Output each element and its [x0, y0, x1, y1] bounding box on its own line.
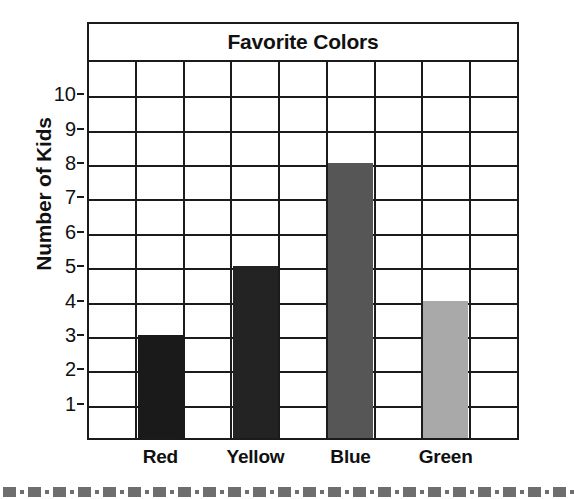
deco-dash [478, 487, 491, 497]
deco-dash [303, 487, 316, 497]
deco-dash [528, 487, 541, 497]
deco-segment [450, 487, 475, 497]
y-tick-label: 10 [46, 84, 76, 104]
y-tick-label: 6 [46, 222, 76, 242]
deco-dot [270, 490, 274, 494]
deco-dot [370, 490, 374, 494]
y-tick-mark [77, 334, 84, 336]
y-tick-mark [77, 231, 84, 233]
y-tick-mark [77, 128, 84, 130]
deco-dash [278, 487, 291, 497]
deco-dot [245, 490, 249, 494]
deco-dash [3, 487, 16, 497]
deco-dot [170, 490, 174, 494]
y-tick-label: 9 [46, 119, 76, 139]
y-axis-tick-labels: 12345678910 [46, 0, 84, 499]
deco-dot [545, 490, 549, 494]
y-tick-mark [77, 196, 84, 198]
deco-segment [375, 487, 400, 497]
deco-dot [495, 490, 499, 494]
deco-segment [25, 487, 50, 497]
deco-segment [75, 487, 100, 497]
deco-dot [20, 490, 24, 494]
x-label-yellow: Yellow [226, 446, 284, 468]
chart-title-band: Favorite Colors [89, 24, 517, 62]
deco-segment [150, 487, 175, 497]
deco-segment [400, 487, 425, 497]
deco-dash [178, 487, 191, 497]
grid-column [185, 62, 233, 438]
deco-dot [445, 490, 449, 494]
y-tick-label: 5 [46, 256, 76, 276]
grid-column [328, 62, 376, 438]
deco-dot [345, 490, 349, 494]
deco-dot [95, 490, 99, 494]
y-tick-mark [77, 93, 84, 95]
grid-column [423, 62, 471, 438]
deco-dot [220, 490, 224, 494]
deco-dash [353, 487, 366, 497]
deco-dot [195, 490, 199, 494]
y-tick-mark [77, 300, 84, 302]
deco-segment [175, 487, 200, 497]
deco-dot [70, 490, 74, 494]
deco-dash [253, 487, 266, 497]
deco-dot [45, 490, 49, 494]
deco-segment [0, 487, 25, 497]
deco-dash [553, 487, 566, 497]
y-tick-mark [77, 265, 84, 267]
grid-column [89, 62, 137, 438]
y-tick-label: 3 [46, 325, 76, 345]
deco-dash [228, 487, 241, 497]
deco-dot [145, 490, 149, 494]
y-tick-label: 4 [46, 291, 76, 311]
deco-segment [200, 487, 225, 497]
plot-area [89, 62, 517, 438]
deco-segment [325, 487, 350, 497]
y-tick-mark [77, 403, 84, 405]
x-axis-category-labels: RedYellowBlueGreen [87, 446, 519, 476]
deco-segment [550, 487, 575, 497]
y-tick-label: 7 [46, 187, 76, 207]
deco-dot [420, 490, 424, 494]
deco-segment [50, 487, 75, 497]
grid-column [471, 62, 517, 438]
x-label-blue: Blue [330, 446, 370, 468]
decorative-footer-border [0, 484, 546, 499]
deco-segment [125, 487, 150, 497]
grid-column [376, 62, 424, 438]
deco-segment [100, 487, 125, 497]
chart-frame: Favorite Colors [87, 22, 519, 440]
deco-dash [403, 487, 416, 497]
deco-dash [428, 487, 441, 497]
deco-dash [128, 487, 141, 497]
deco-segment [275, 487, 300, 497]
deco-segment [225, 487, 250, 497]
deco-dot [520, 490, 524, 494]
deco-segment [500, 487, 525, 497]
y-tick-mark [77, 368, 84, 370]
deco-dot [470, 490, 474, 494]
deco-dot [570, 490, 574, 494]
grid-column [280, 62, 328, 438]
grid-columns [89, 62, 517, 438]
deco-dash [203, 487, 216, 497]
deco-segment [525, 487, 550, 497]
deco-segment [300, 487, 325, 497]
deco-segment [250, 487, 275, 497]
y-tick-label: 8 [46, 153, 76, 173]
deco-dot [320, 490, 324, 494]
deco-dash [103, 487, 116, 497]
y-tick-mark [77, 162, 84, 164]
deco-segment [425, 487, 450, 497]
deco-dash [78, 487, 91, 497]
deco-segment [350, 487, 375, 497]
deco-dash [378, 487, 391, 497]
deco-dot [120, 490, 124, 494]
y-tick-label: 2 [46, 359, 76, 379]
deco-dash [328, 487, 341, 497]
deco-segment [475, 487, 500, 497]
deco-dash [53, 487, 66, 497]
x-label-red: Red [143, 446, 178, 468]
